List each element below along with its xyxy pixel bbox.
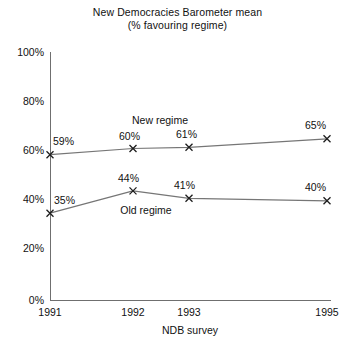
chart-plot-area: 100% 80% 60% 40% 20% 0% 1991 1992 1993 1… (0, 0, 355, 349)
data-label-new-1991: 59% (53, 135, 74, 147)
series-label-new-regime: New regime (132, 114, 188, 126)
x-tick-label-1993: 1993 (177, 306, 201, 318)
y-tick-label-60: 60% (23, 144, 44, 156)
y-tick-label-100: 100% (17, 46, 44, 58)
x-tick-label-1995: 1995 (315, 306, 339, 318)
series-line-old-regime (50, 191, 327, 213)
data-label-new-1993: 61% (176, 128, 197, 140)
chart-container: New Democracies Barometer mean (% favour… (0, 0, 355, 349)
y-tick-label-20: 20% (23, 242, 44, 254)
data-label-old-1992: 44% (118, 172, 139, 184)
x-tick-label-1991: 1991 (38, 306, 62, 318)
series-label-old-regime: Old regime (120, 204, 172, 216)
data-label-old-1993: 41% (174, 179, 195, 191)
data-label-new-1995: 65% (305, 119, 326, 131)
x-tick-label-1992: 1992 (121, 306, 145, 318)
y-tick-label-0: 0% (29, 294, 44, 306)
y-tick-label-40: 40% (23, 193, 44, 205)
data-label-old-1991: 35% (54, 194, 75, 206)
x-axis-title: NDB survey (162, 324, 219, 336)
data-label-old-1995: 40% (305, 181, 326, 193)
y-tick-label-80: 80% (23, 95, 44, 107)
data-label-new-1992: 60% (119, 130, 140, 142)
